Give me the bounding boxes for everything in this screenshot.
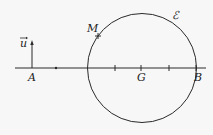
vector-u-arrowhead-icon xyxy=(30,40,33,45)
diagram-svg: u A M G B ℰ xyxy=(0,0,213,135)
geometry-diagram: u A M G B ℰ xyxy=(0,0,213,135)
label-point-b: B xyxy=(193,71,202,84)
label-circle-e: ℰ xyxy=(172,9,180,22)
unit-dot xyxy=(55,67,57,69)
label-point-a: A xyxy=(27,71,36,84)
label-point-m: M xyxy=(86,22,99,35)
label-point-g: G xyxy=(137,71,146,84)
